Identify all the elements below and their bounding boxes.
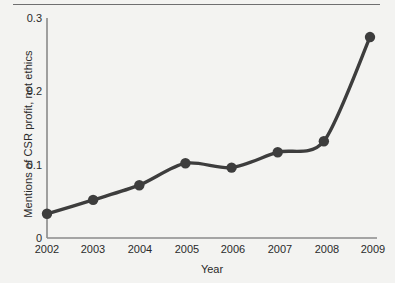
plot-area — [0, 0, 395, 283]
data-point-2009 — [365, 32, 375, 42]
chart-figure: Mentions of CSR profit, not ethics Year … — [0, 0, 395, 283]
data-point-markers — [42, 32, 375, 219]
data-line-series-1 — [47, 37, 370, 214]
data-point-2004 — [134, 180, 144, 190]
data-point-2007 — [273, 147, 283, 157]
data-point-2005 — [180, 158, 190, 168]
data-point-2003 — [88, 195, 98, 205]
data-point-2008 — [319, 136, 329, 146]
data-point-2006 — [226, 162, 236, 172]
data-point-2002 — [42, 209, 52, 219]
